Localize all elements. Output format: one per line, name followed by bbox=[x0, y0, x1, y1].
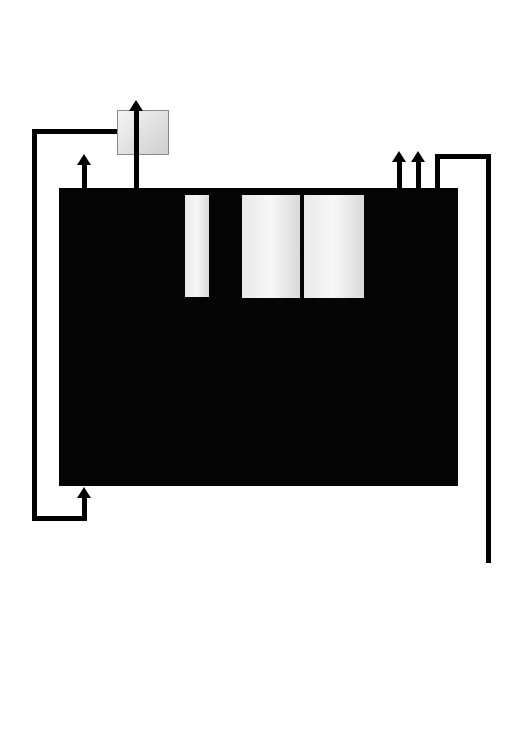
arrow-jtag-tdo bbox=[392, 151, 406, 162]
arrow-jtag-tdoen bbox=[411, 151, 425, 162]
isfill-box bbox=[185, 195, 209, 297]
arrow-to-debughalt bbox=[77, 487, 91, 498]
halt-logic-box bbox=[117, 110, 169, 155]
arrow-gpio-out bbox=[129, 100, 143, 111]
wire-halt-loop-top bbox=[32, 129, 117, 134]
wire-halt-loop-up bbox=[82, 497, 87, 521]
instruction-cache-box bbox=[242, 195, 300, 298]
wire-rstreq-right bbox=[486, 154, 491, 563]
wire-gpio-out bbox=[134, 110, 139, 188]
data-cache-box bbox=[304, 195, 364, 298]
wire-halt-loop-left bbox=[32, 129, 37, 521]
wire-c405dbgmsrwe bbox=[82, 163, 87, 188]
wire-jtag-tdoen bbox=[416, 161, 421, 188]
wire-jtag-tdo bbox=[397, 161, 402, 188]
wire-halt-loop-bottom bbox=[32, 516, 87, 521]
wire-rstreq-top bbox=[435, 154, 491, 159]
arrow-to-halt-logic bbox=[77, 154, 91, 165]
wire-rstreq-up bbox=[435, 154, 440, 188]
